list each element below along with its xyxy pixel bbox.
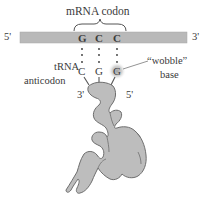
wobble-base-label: base <box>160 70 179 81</box>
wobble-pointer-line <box>123 61 148 69</box>
codon-anticodon-diagram: mRNA codon 5' 3' G C C C G G tRNA antico… <box>0 0 203 206</box>
anticodon-label: anticodon <box>24 76 65 87</box>
codon-base-3: C <box>113 33 121 44</box>
anticodon-base-2: G <box>95 66 103 77</box>
wobble-label: “wobble” <box>147 56 187 67</box>
codon-base-1: G <box>78 33 87 44</box>
base-pair-dots <box>81 48 118 63</box>
codon-base-2: C <box>95 33 103 44</box>
trna-5-prime-label: 5' <box>126 90 133 101</box>
anticodon-base-1: C <box>78 66 85 77</box>
mrna-strand <box>20 32 187 43</box>
mrna-codon-label: mRNA codon <box>66 6 130 18</box>
codon-brace <box>74 19 126 31</box>
mrna-3-prime-label: 3' <box>192 32 199 43</box>
trna-3-prime-label: 3' <box>77 90 84 101</box>
trna-label: tRNA <box>54 62 79 73</box>
diagram-graphics <box>0 0 203 206</box>
mrna-5-prime-label: 5' <box>4 32 11 43</box>
anticodon-base-3-wobble: G <box>113 66 121 77</box>
